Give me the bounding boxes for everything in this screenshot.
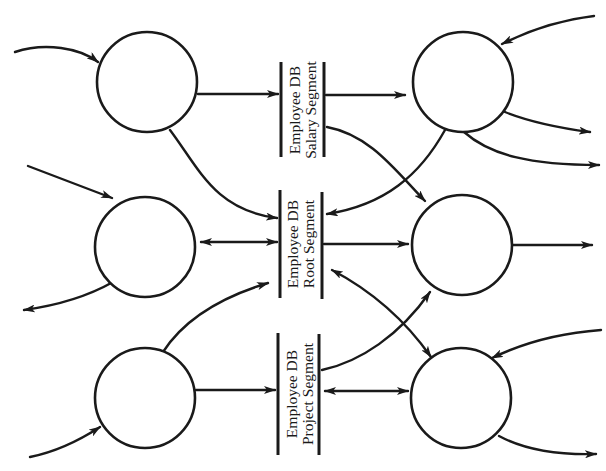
- flow-arrow-left-top-to-root: [170, 130, 277, 218]
- store-label-line2: Salary Segment: [302, 60, 319, 158]
- flow-arrow-project-to-right-middle: [322, 292, 430, 370]
- flow-arrow-right-bottom-out: [499, 436, 596, 454]
- flow-arrow-right-top-out-1: [505, 112, 590, 132]
- flow-arrow-left-bottom-to-root: [163, 283, 268, 352]
- data-flow-diagram: Employee DB Salary Segment Employee DB R…: [0, 0, 606, 471]
- process-left-middle: [95, 197, 195, 297]
- flow-arrow-into-left-middle: [28, 166, 112, 198]
- flow-arrow-right-top-to-root: [327, 130, 445, 214]
- process-right-middle: [412, 195, 512, 295]
- store-label-line1: Employee DB: [283, 350, 300, 438]
- store-salary-segment: Employee DB Salary Segment: [281, 60, 324, 158]
- flow-arrow-right-top-out-2: [464, 132, 599, 165]
- store-label-line2: Root Segment: [300, 199, 317, 288]
- store-project-segment: Employee DB Project Segment: [278, 333, 319, 455]
- flow-arrow-left-middle-out: [24, 282, 113, 310]
- process-right-top: [413, 32, 513, 132]
- flow-arrow-root-right-bottom-bidirectional: [332, 270, 431, 357]
- flow-arrow-into-left-top: [15, 47, 98, 62]
- flow-arrow-into-left-bottom: [30, 427, 100, 457]
- store-label-line1: Employee DB: [286, 66, 303, 154]
- process-left-bottom: [95, 348, 195, 448]
- store-root-segment: Employee DB Root Segment: [280, 190, 322, 299]
- flow-arrow-into-right-bottom: [492, 330, 601, 358]
- store-label-line1: Employee DB: [284, 200, 301, 288]
- process-right-bottom: [411, 348, 511, 448]
- flow-arrow-into-right-top: [502, 16, 594, 44]
- flow-arrow-salary-to-right-middle: [327, 127, 425, 201]
- process-left-top: [97, 32, 197, 132]
- store-label-line2: Project Segment: [299, 342, 316, 445]
